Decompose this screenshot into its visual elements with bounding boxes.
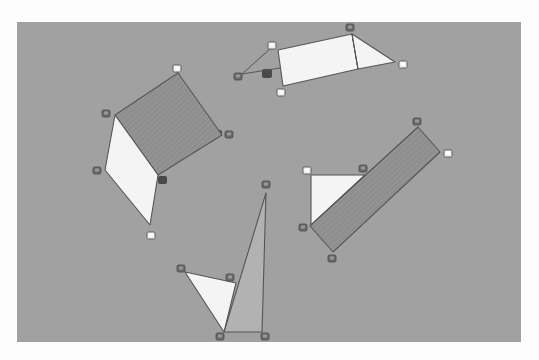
cube-right-1-marker-icon xyxy=(413,118,421,125)
cube-top-2-marker-icon xyxy=(268,42,276,49)
cube-right-4-marker-icon xyxy=(359,165,367,172)
cube-top-3-marker-icon xyxy=(234,73,242,80)
cube-left-1-marker-icon xyxy=(173,65,181,72)
cube-right-6-marker-icon xyxy=(328,255,336,262)
cube-bottom-5-marker-icon xyxy=(261,333,269,340)
photo-scene xyxy=(0,0,539,360)
cube-top-5-marker-icon xyxy=(399,61,407,68)
left-group-shadow xyxy=(158,176,167,184)
cube-right-2-marker-icon xyxy=(444,150,452,157)
cube-left-2-marker-icon xyxy=(102,110,110,117)
cube-bottom-3-marker-icon xyxy=(226,274,234,281)
cube-bottom-1-marker-icon xyxy=(262,181,270,188)
cube-bottom-4-marker-icon xyxy=(216,333,224,340)
cube-right-5-marker-icon xyxy=(299,224,307,231)
cube-top-4-marker-icon xyxy=(277,89,285,96)
cube-left-4-marker-icon xyxy=(93,167,101,174)
cube-left-3-marker-icon xyxy=(225,131,233,138)
cube-bottom-2-marker-icon xyxy=(177,265,185,272)
cube-top-1-marker-icon xyxy=(346,24,354,31)
cube-left-5-marker-icon xyxy=(147,232,155,239)
cube-right-3-marker-icon xyxy=(303,167,311,174)
